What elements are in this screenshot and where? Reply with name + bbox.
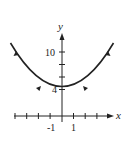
y-axis-label: y xyxy=(57,20,63,32)
x-tick-label-1: 1 xyxy=(71,122,76,133)
x-axis: -1 1 x xyxy=(14,109,121,133)
curve-arrow-icon xyxy=(36,86,41,91)
curve-arrow-icon xyxy=(83,86,88,91)
x-tick-label-neg1: -1 xyxy=(47,122,55,133)
y-tick-label-10: 10 xyxy=(45,47,55,58)
y-axis: 10 4 y xyxy=(45,20,65,122)
y-axis-arrow-icon xyxy=(60,33,65,40)
x-axis-label: x xyxy=(115,109,121,121)
parabola-chart: -1 1 x 10 4 y xyxy=(0,0,130,142)
x-axis-arrow-icon xyxy=(107,114,114,119)
